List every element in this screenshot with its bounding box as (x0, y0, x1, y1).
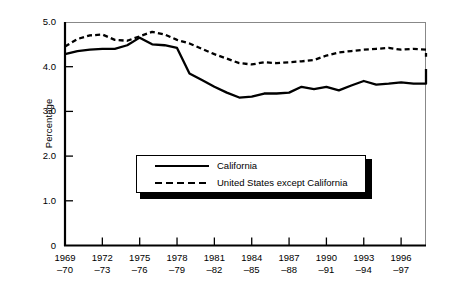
chart-figure: Percentage 01.02.03.04.05.0 1969–701972–… (0, 0, 451, 297)
legend-item-united-states-except-california: United States except California (137, 173, 365, 192)
legend-box: California United States except Californ… (136, 155, 366, 193)
plot-frame (65, 23, 426, 246)
legend-label-united-states-except-california: United States except California (217, 177, 347, 188)
legend-label-california: California (217, 160, 257, 171)
plot-area (0, 0, 451, 297)
legend-swatch-dashed-icon (155, 178, 209, 188)
legend-swatch-solid-icon (155, 161, 209, 171)
